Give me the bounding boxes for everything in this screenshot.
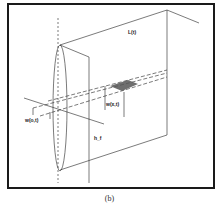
label-length: L(t) <box>128 29 136 35</box>
label-width-origin: w(o,t) <box>24 117 39 123</box>
label-width-x: w(x,t) <box>105 101 119 107</box>
figure-caption: (b) <box>0 194 219 203</box>
fracture-diagram: L(t) w(x,t) w(o,t) h_f <box>0 0 219 207</box>
label-height: h_f <box>94 135 102 141</box>
